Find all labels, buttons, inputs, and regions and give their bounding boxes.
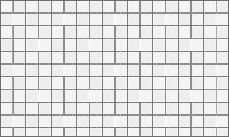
tile-rect <box>65 65 76 76</box>
tile-rect <box>192 90 203 101</box>
tile-rect <box>65 103 76 114</box>
tile-rect <box>52 65 63 76</box>
tile-rect <box>52 39 63 50</box>
tile-rect <box>14 52 25 63</box>
tile-rect <box>52 52 63 63</box>
tile-rect <box>52 103 63 114</box>
tile-rect <box>1 90 12 101</box>
texture-streak <box>72 0 73 137</box>
tile-rect <box>1 103 12 114</box>
tile-rect <box>1 14 12 25</box>
tile-rect <box>1 65 12 76</box>
tile-rect <box>141 116 152 127</box>
tile-rect <box>116 27 127 38</box>
tile-rect <box>128 1 139 12</box>
tile-rect <box>52 1 63 12</box>
tile-rect <box>78 128 89 137</box>
tile-rect <box>141 1 152 12</box>
tile-rect <box>116 116 127 127</box>
tile-rect <box>154 1 165 12</box>
tile-rect <box>1 52 12 63</box>
tile-rect <box>52 128 63 137</box>
tile-rect <box>205 27 216 38</box>
tile-rect <box>217 78 228 89</box>
tile-rect <box>128 78 139 89</box>
tile-rect <box>217 65 228 76</box>
tile-rect <box>14 78 25 89</box>
tile-rect <box>205 90 216 101</box>
tile-rect <box>65 90 76 101</box>
tile-rect <box>90 1 101 12</box>
tile-rect <box>154 116 165 127</box>
tile-rect <box>116 1 127 12</box>
tile-rect <box>116 78 127 89</box>
tile-rect <box>116 52 127 63</box>
tile-rect <box>1 1 12 12</box>
tile-rect <box>205 65 216 76</box>
tile-rect <box>65 27 76 38</box>
tile-rect <box>1 116 12 127</box>
tile-rect <box>128 27 139 38</box>
tile-rect <box>154 90 165 101</box>
texture-streak <box>48 0 49 137</box>
tile-rect <box>217 128 228 137</box>
tile-rect <box>141 39 152 50</box>
texture-streak <box>180 0 181 137</box>
tile-rect <box>205 52 216 63</box>
tile-rect <box>217 27 228 38</box>
tile-rect <box>205 14 216 25</box>
tile-rect <box>65 52 76 63</box>
tile-rect <box>14 90 25 101</box>
tile-rect <box>78 39 89 50</box>
tile-rect <box>154 78 165 89</box>
tile-rect <box>192 128 203 137</box>
tile-rect <box>78 116 89 127</box>
tile-rect <box>141 14 152 25</box>
tile-rect <box>78 14 89 25</box>
tile-rect <box>192 116 203 127</box>
tile-rect <box>116 90 127 101</box>
tile-rect <box>14 65 25 76</box>
texture-streak <box>12 0 13 137</box>
tile-rect <box>141 27 152 38</box>
tile-rect <box>52 27 63 38</box>
tile-rect <box>65 1 76 12</box>
tile-rect <box>1 27 12 38</box>
tile-rect <box>14 116 25 127</box>
tile-rect <box>65 14 76 25</box>
tile-rect <box>1 78 12 89</box>
tile-rect <box>205 1 216 12</box>
tile-rect <box>90 14 101 25</box>
texture-streak <box>120 0 121 137</box>
tile-rect <box>141 90 152 101</box>
tile-rect <box>217 116 228 127</box>
tile-rect <box>154 65 165 76</box>
tile-rect <box>141 52 152 63</box>
tile-rect <box>217 39 228 50</box>
texture-streak <box>192 0 193 137</box>
tile-rect <box>128 90 139 101</box>
tile-rect <box>116 39 127 50</box>
tile-pattern-svg <box>0 0 229 137</box>
tile-rect <box>205 116 216 127</box>
tile-rect <box>128 103 139 114</box>
texture-streak <box>84 0 85 137</box>
tile-rect <box>14 27 25 38</box>
tile-rect <box>217 103 228 114</box>
tile-rect <box>90 39 101 50</box>
tile-rect <box>128 65 139 76</box>
tile-rect <box>65 39 76 50</box>
tile-rect <box>65 78 76 89</box>
tile-rect <box>78 1 89 12</box>
tile-rect <box>192 27 203 38</box>
texture-streak <box>168 0 169 137</box>
tile-rect <box>205 39 216 50</box>
texture-streak <box>24 0 25 137</box>
texture-streak <box>144 0 145 137</box>
texture-streak <box>216 0 217 137</box>
tile-rect <box>141 78 152 89</box>
tile-rect <box>217 1 228 12</box>
tile-rect <box>14 39 25 50</box>
tile-rect <box>217 14 228 25</box>
texture-streak <box>108 0 109 137</box>
